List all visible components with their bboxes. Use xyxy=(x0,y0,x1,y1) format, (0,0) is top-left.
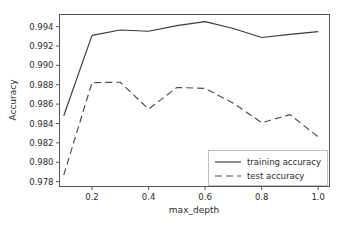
y-tick-label: 0.994 xyxy=(29,22,53,32)
y-tick-label: 0.988 xyxy=(29,80,53,90)
legend-label-1: test accuracy xyxy=(247,171,304,181)
x-tick-label: 0.4 xyxy=(142,192,156,202)
chart-figure: 0.20.40.60.81.0 0.9780.9800.9820.9840.98… xyxy=(0,0,346,231)
y-tick-label: 0.980 xyxy=(29,157,53,167)
y-tick-label: 0.978 xyxy=(29,177,53,187)
y-tick-label: 0.982 xyxy=(29,138,53,148)
line-chart: 0.20.40.60.81.0 0.9780.9800.9820.9840.98… xyxy=(0,0,346,231)
y-tick-label: 0.984 xyxy=(29,119,53,129)
x-axis-ticks: 0.20.40.60.81.0 xyxy=(85,187,325,202)
legend-label-0: training accuracy xyxy=(247,157,321,167)
x-tick-label: 1.0 xyxy=(311,192,325,202)
y-axis-ticks: 0.9780.9800.9820.9840.9860.9880.9900.992… xyxy=(29,22,59,187)
y-axis-title: Accuracy xyxy=(8,79,18,121)
y-tick-label: 0.990 xyxy=(29,60,53,70)
x-tick-label: 0.6 xyxy=(198,192,212,202)
x-tick-label: 0.8 xyxy=(255,192,269,202)
chart-legend: training accuracytest accuracy xyxy=(209,151,328,186)
x-axis-title: max_depth xyxy=(169,205,219,215)
series-line-training-accuracy xyxy=(64,22,318,116)
y-tick-label: 0.986 xyxy=(29,99,53,109)
y-tick-label: 0.992 xyxy=(29,41,53,51)
x-tick-label: 0.2 xyxy=(85,192,99,202)
